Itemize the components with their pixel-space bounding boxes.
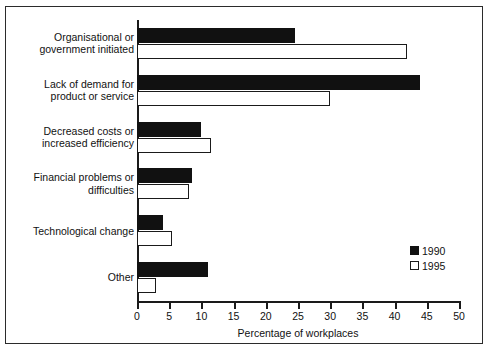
value-axis-tick [234,303,236,309]
bar-group [137,20,459,67]
value-axis-tick-label: 25 [283,310,313,322]
bar-1995 [137,91,330,106]
value-axis-tick [330,303,332,309]
legend-label: 1990 [422,245,445,257]
value-axis-tick [169,303,171,309]
value-axis-tick-label: 10 [186,310,216,322]
bar-1990 [137,168,192,183]
bar-1990 [137,215,163,230]
chart-figure-frame: Organisational or government initiatedLa… [5,6,483,344]
legend-item-1995: 1995 [410,258,472,273]
category-label: Other [16,271,134,284]
bar-1995 [137,138,211,153]
category-label: Organisational or government initiated [16,31,134,56]
value-axis-tick-label: 20 [251,310,281,322]
category-label: Financial problems or difficulties [16,171,134,196]
bar-1995 [137,44,407,59]
legend-item-1990: 1990 [410,243,472,258]
legend-swatch-icon [410,246,419,255]
value-axis-tick [137,303,139,309]
bar-1995 [137,231,172,246]
value-axis-tick [395,303,397,309]
chart-legend: 19901995 [410,243,472,273]
bar-1990 [137,75,420,90]
bar-1995 [137,278,156,293]
bar-group [137,161,459,208]
category-label: Decreased costs or increased efficiency [16,125,134,150]
category-axis-labels: Organisational or government initiatedLa… [12,20,134,301]
value-axis-tick-label: 5 [154,310,184,322]
legend-label: 1995 [422,260,445,272]
bar-1990 [137,122,201,137]
value-axis-tick [201,303,203,309]
bar-1990 [137,262,208,277]
value-axis-tick [266,303,268,309]
value-axis-tick-label: 0 [122,310,152,322]
value-axis-tick-label: 50 [444,310,474,322]
value-axis-title: Percentage of workplaces [137,327,459,339]
category-label: Lack of demand for product or service [16,78,134,103]
value-axis-tick-labels: 05101520253035404550 [137,310,459,326]
legend-swatch-icon [410,261,419,270]
value-axis-tick [298,303,300,309]
value-axis-tick [427,303,429,309]
category-label: Technological change [16,225,134,238]
value-axis-tick [459,303,461,309]
value-axis-tick-label: 45 [412,310,442,322]
bar-1995 [137,184,189,199]
bar-group [137,67,459,114]
value-axis-tick [362,303,364,309]
value-axis-tick-label: 35 [347,310,377,322]
value-axis-tick-label: 40 [380,310,410,322]
value-axis-tick-label: 30 [315,310,345,322]
value-axis-tick-label: 15 [219,310,249,322]
bar-1990 [137,28,295,43]
bar-group [137,114,459,161]
